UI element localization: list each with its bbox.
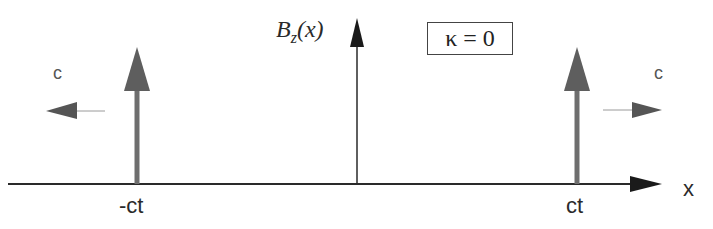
- y-axis-arrow-icon: [350, 18, 364, 47]
- right-velocity-label: c: [654, 63, 663, 84]
- left-pulse-label: -ct: [119, 193, 143, 219]
- right-pulse-arrow-icon: [564, 47, 590, 91]
- left-velocity-label: c: [53, 63, 62, 84]
- y-axis-label-main: B: [276, 16, 291, 42]
- right-velocity-arrow-icon: [632, 102, 662, 118]
- right-pulse-label: ct: [566, 193, 583, 219]
- y-axis-label-arg: (x): [297, 16, 324, 42]
- x-axis-arrow-icon: [630, 176, 662, 192]
- diagram-canvas: [0, 0, 713, 229]
- left-pulse-arrow-icon: [124, 47, 150, 91]
- parameter-box: κ = 0: [427, 22, 513, 55]
- y-axis-label: Bz(x): [276, 16, 324, 47]
- x-axis-label: x: [683, 176, 694, 202]
- left-velocity-arrow-icon: [46, 102, 77, 119]
